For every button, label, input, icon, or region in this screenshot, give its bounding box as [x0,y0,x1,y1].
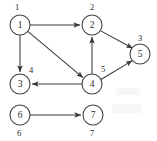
node-7-external-label: 7 [90,128,94,138]
node-2-value: 2 [90,20,95,30]
edge-2-to-5 [100,31,132,49]
node-5-value: 5 [138,49,143,59]
node-3[interactable]: 3 4 [10,65,34,94]
graph-figure: 1 1 2 2 5 3 3 4 4 5 [0,0,157,141]
node-7[interactable]: 7 7 [83,105,103,138]
node-2-external-label: 2 [90,2,94,12]
node-6-external-label: 6 [17,128,21,138]
node-1-value: 1 [18,20,23,30]
node-1[interactable]: 1 1 [10,2,30,35]
node-3-value: 3 [18,79,23,89]
node-6[interactable]: 6 6 [10,105,30,138]
edge-4-to-5 [101,61,132,80]
edges-group [20,25,133,115]
node-4-external-label: 5 [101,64,105,74]
node-5-external-label: 3 [138,33,142,43]
node-4-value: 4 [90,79,95,89]
node-3-external-label: 4 [29,65,34,75]
graph-canvas: 1 1 2 2 5 3 3 4 4 5 [0,0,157,141]
node-1-external-label: 1 [15,2,19,12]
nodes-group: 1 1 2 2 5 3 3 4 4 5 [10,2,150,138]
edge-1-to-4 [28,31,83,77]
node-5[interactable]: 5 3 [130,33,150,64]
node-7-value: 7 [91,110,96,120]
node-6-value: 6 [18,110,23,120]
node-2[interactable]: 2 2 [82,2,102,35]
